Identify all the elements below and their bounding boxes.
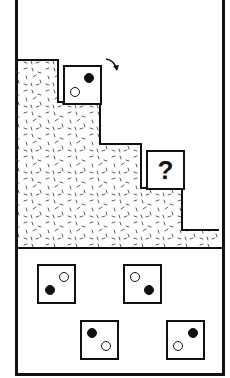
hollow-dot: [130, 272, 140, 282]
rotate-clockwise-arrow-icon: [106, 59, 119, 71]
question-tile: ?: [146, 150, 185, 190]
given-tile: [63, 65, 102, 105]
hollow-dot: [70, 87, 80, 97]
option-c[interactable]: [80, 320, 119, 360]
filled-dot: [45, 285, 55, 295]
filled-dot: [144, 285, 154, 295]
question-mark: ?: [148, 152, 183, 188]
filled-dot: [87, 328, 97, 338]
option-b[interactable]: [123, 264, 162, 304]
hollow-dot: [101, 341, 111, 351]
filled-dot: [84, 73, 94, 83]
hollow-dot: [173, 341, 183, 351]
answer-divider: [15, 247, 222, 249]
hollow-dot: [59, 272, 69, 282]
option-a[interactable]: [37, 264, 76, 304]
stairs-fill: [16, 60, 219, 247]
option-d[interactable]: [166, 320, 205, 360]
filled-dot: [188, 328, 198, 338]
